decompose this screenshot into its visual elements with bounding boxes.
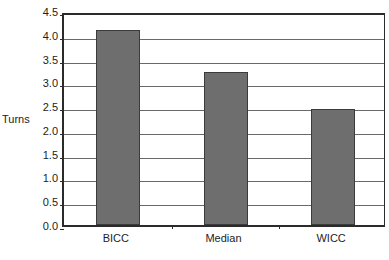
x-axis-tick-mark (279, 225, 280, 229)
y-axis-tick-label: 4.5 (28, 7, 58, 18)
bar-median (204, 72, 248, 225)
y-axis-tick-label: 4.0 (28, 31, 58, 42)
bar-chart-figure: Turns 0.00.51.01.52.02.53.03.54.04.5 BIC… (0, 0, 389, 260)
y-axis-tick-label: 1.5 (28, 150, 58, 161)
y-axis-tick-label: 0.0 (28, 221, 58, 232)
y-axis-tick-mark (60, 63, 64, 64)
x-axis-tick-label: WICC (281, 232, 381, 244)
x-axis-tick-mark (172, 225, 173, 229)
y-axis-tick-label: 3.0 (28, 78, 58, 89)
y-axis-tick-mark (60, 181, 64, 182)
y-axis-tick-label: 0.5 (28, 197, 58, 208)
caption-sliver: · · · · · · · · · · · · · · · · (84, 253, 306, 257)
y-axis-tick-labels: 0.00.51.01.52.02.53.03.54.04.5 (28, 0, 58, 260)
x-axis-tick-label: BICC (66, 232, 166, 244)
y-axis-tick-mark (60, 110, 64, 111)
y-axis-tick-mark (60, 86, 64, 87)
x-axis-tick-label: Median (174, 232, 274, 244)
y-axis-tick-mark (60, 158, 64, 159)
bar-bicc (96, 30, 140, 225)
plot-area (62, 13, 385, 227)
y-axis-tick-mark (60, 229, 64, 230)
y-axis-tick-label: 1.0 (28, 173, 58, 184)
y-axis-tick-label: 2.5 (28, 102, 58, 113)
bar-wicc (311, 109, 355, 225)
y-axis-tick-mark (60, 15, 64, 16)
y-axis-tick-label: 3.5 (28, 55, 58, 66)
y-axis-tick-label: 2.0 (28, 126, 58, 137)
y-axis-tick-mark (60, 39, 64, 40)
y-axis-tick-mark (60, 205, 64, 206)
y-axis-tick-mark (60, 134, 64, 135)
